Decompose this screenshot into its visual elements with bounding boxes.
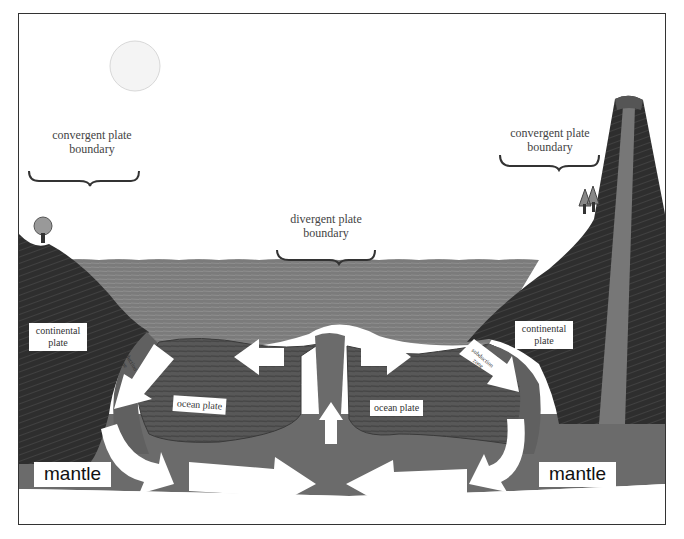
label-line: convergent plate [37, 128, 147, 142]
rift-magma [315, 333, 345, 414]
label-mantle-right: mantle [539, 462, 616, 487]
tectonics-scene [19, 14, 665, 524]
diagram-frame: convergent plate boundary divergent plat… [18, 13, 666, 525]
label-line: boundary [495, 140, 605, 154]
label-line: boundary [37, 142, 147, 156]
trees-right [579, 186, 599, 206]
label-ocean-plate-right: ocean plate [370, 400, 423, 416]
label-line: convergent plate [495, 126, 605, 140]
brace-left [29, 171, 139, 186]
label-divergent: divergent plate boundary [271, 212, 381, 240]
label-mantle-left: mantle [34, 462, 111, 487]
label-line: divergent plate [271, 212, 381, 226]
label-continental-plate-right: continental plate [515, 321, 573, 349]
brace-right [500, 155, 599, 170]
label-line: plate [519, 335, 569, 347]
label-line: continental [519, 323, 569, 335]
tree-left [34, 217, 52, 235]
label-line: continental [33, 325, 83, 337]
label-convergent-right: convergent plate boundary [495, 126, 605, 154]
label-line: plate [33, 337, 83, 349]
sun [110, 41, 160, 91]
label-line: boundary [271, 226, 381, 240]
label-convergent-left: convergent plate boundary [37, 128, 147, 156]
label-continental-plate-left: continental plate [29, 323, 87, 351]
